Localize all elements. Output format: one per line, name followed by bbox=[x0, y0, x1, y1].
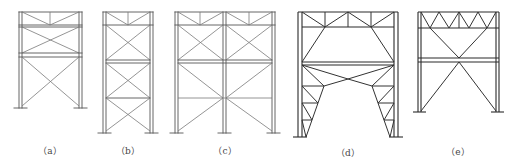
frame-d bbox=[293, 12, 403, 137]
frame-e bbox=[413, 12, 504, 112]
label-b: （b） bbox=[116, 146, 140, 156]
label-c: （c） bbox=[213, 146, 236, 156]
frame-c bbox=[170, 12, 280, 133]
frame-a bbox=[14, 12, 87, 108]
label-d: （d） bbox=[336, 148, 360, 158]
label-a: （a） bbox=[38, 146, 61, 156]
frame-b bbox=[98, 12, 158, 133]
label-e: （e） bbox=[446, 147, 469, 157]
frame-diagrams: （a） （b） bbox=[0, 0, 516, 167]
